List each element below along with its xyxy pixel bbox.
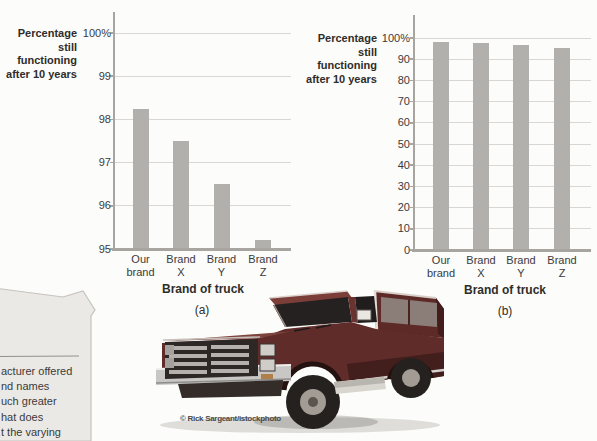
- callout-line: t the varying: [1, 425, 72, 440]
- y-tick-label: 50: [374, 138, 410, 151]
- y-axis: [113, 12, 115, 250]
- x-tick-line: Z: [538, 267, 586, 280]
- panel-label-b: (b): [465, 304, 545, 318]
- y-tick-label: 90: [374, 53, 410, 66]
- callout-text: acturer offered nd names uch greater hat…: [1, 364, 72, 440]
- y-tick-label: 97: [75, 156, 111, 169]
- bar-brand-y: [214, 184, 230, 249]
- callout-line: uch greater: [1, 394, 72, 409]
- callout-line: hat does: [1, 410, 72, 425]
- y-tick-label: 96: [75, 199, 111, 212]
- bar-brand-y: [513, 45, 529, 250]
- y-tick-label: 99: [75, 70, 111, 83]
- y-tick-label: 20: [374, 201, 410, 214]
- x-tick-line: Z: [239, 266, 287, 279]
- chart-b-xlabel: Brand of truck: [445, 283, 565, 297]
- bar-brand-z: [554, 48, 570, 250]
- gridline: [115, 76, 291, 77]
- y-tick-label: 0: [374, 244, 410, 257]
- bar-brand-x: [173, 141, 189, 249]
- gridline: [115, 33, 291, 34]
- x-tick-line: Brand: [538, 254, 586, 267]
- y-axis: [413, 15, 415, 251]
- y-tick-label: 10: [374, 222, 410, 235]
- callout-line: acturer offered: [1, 364, 72, 379]
- photo-credit: © Rick Sargeant/istockphoto: [180, 414, 281, 423]
- y-tick-label: 95: [75, 243, 111, 256]
- y-tick-label: 98: [75, 113, 111, 126]
- bar-brand-x: [473, 43, 489, 250]
- y-tick-label: 30: [374, 180, 410, 193]
- y-tick-label: 80: [374, 74, 410, 87]
- y-tick-label: 40: [374, 159, 410, 172]
- y-tick-label: 70: [374, 95, 410, 108]
- bar-our-brand: [433, 42, 449, 250]
- callout-line: nd names: [1, 379, 72, 394]
- x-tick-label: BrandZ: [239, 253, 287, 280]
- x-tick-line: Brand: [239, 253, 287, 266]
- x-axis: [112, 248, 291, 251]
- y-tick-label: 100%: [75, 27, 111, 40]
- y-tick-label: 100%: [374, 32, 410, 45]
- y-tick-label: 60: [374, 116, 410, 129]
- bar-our-brand: [133, 109, 149, 249]
- textbook-figure: Percentage still functioning after 10 ye…: [0, 0, 597, 441]
- gridline: [415, 38, 591, 39]
- x-tick-label: BrandZ: [538, 254, 586, 281]
- x-axis: [412, 249, 591, 252]
